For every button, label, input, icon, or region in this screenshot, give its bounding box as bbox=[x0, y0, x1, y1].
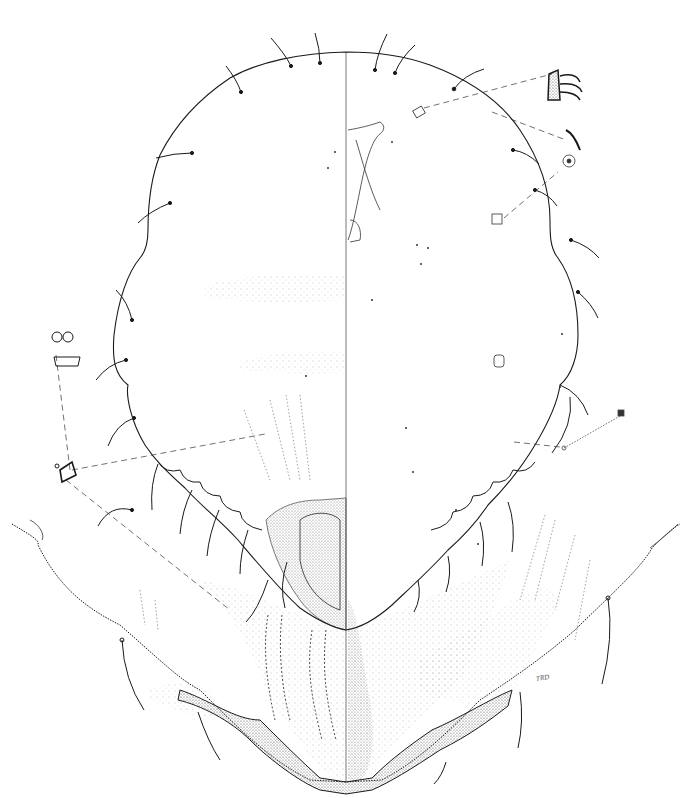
scalloped-margin bbox=[158, 462, 535, 530]
duct-callout-right bbox=[562, 410, 624, 450]
duct-callout-left bbox=[52, 332, 80, 482]
duct-callout-upper bbox=[548, 70, 582, 150]
dorsal-pores bbox=[305, 141, 563, 545]
dorsal-stipple-bands bbox=[205, 274, 345, 373]
specimen-illustration bbox=[0, 0, 686, 798]
dorsal-details bbox=[348, 106, 575, 367]
marginal-setae bbox=[96, 33, 599, 526]
